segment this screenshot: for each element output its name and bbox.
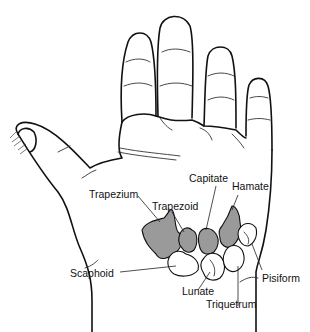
hand-carpal-diagram: Trapezium Trapezoid Capitate Hamate Scap… (0, 0, 310, 332)
label-scaphoid: Scaphoid (70, 268, 114, 279)
label-trapezoid: Trapezoid (152, 201, 198, 212)
hand-outline (16, 16, 272, 332)
capitate-bone (199, 228, 219, 254)
label-pisiform: Pisiform (262, 273, 300, 284)
label-lunate: Lunate (182, 286, 214, 297)
finger-creases (58, 49, 270, 178)
hamate-bone (219, 206, 240, 247)
label-triquetrum: Triquetrum (206, 299, 256, 310)
label-capitate: Capitate (189, 173, 228, 184)
pisiform-bone (238, 224, 257, 247)
lunate-bone (201, 253, 225, 280)
triquetrum-bone (223, 246, 244, 272)
trapezoid-bone (179, 228, 197, 252)
scaphoid-bone (168, 251, 198, 276)
label-trapezium: Trapezium (89, 189, 138, 200)
label-hamate: Hamate (232, 181, 269, 192)
